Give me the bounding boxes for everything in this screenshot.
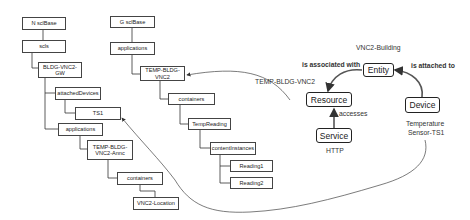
device-caption-line2: Sensor-TS1 (408, 129, 444, 137)
g-sclbase-node: G sclBase (110, 16, 155, 28)
attached-devices-node: attachedDevices (55, 87, 101, 100)
n-scls-node: scls (22, 40, 66, 53)
entity-node: Entity (363, 63, 394, 77)
relation-associated-label: is associated with (302, 61, 360, 69)
entity-caption: VNC2-Building (356, 44, 401, 52)
n-containers-node: containers (117, 172, 163, 185)
gateway-node: BLDG-VNC2-GW (38, 62, 82, 78)
n-applications-node: applications (58, 123, 103, 136)
temp-reading-node: TempReading (188, 118, 231, 130)
annc-node: TEMP-BLDG-VNC2-Annc (87, 140, 133, 160)
service-caption: HTTP (326, 147, 344, 155)
temp-bldg-vnc2-node: TEMP-BLDG-VNC2 (140, 66, 185, 81)
reading1-node: Reading1 (230, 160, 273, 172)
n-sclbase-node: N sclBase (22, 17, 66, 30)
ts1-node: TS1 (75, 107, 121, 120)
g-containers-node: containers (168, 93, 215, 105)
location-node: VNC2-Location (133, 197, 179, 210)
resource-caption: TEMP-BLDG-VNC2 (255, 78, 315, 86)
device-caption-line1: Temperature (406, 120, 444, 128)
device-node: Device (405, 97, 440, 113)
g-applications-node: applications (110, 42, 155, 55)
relation-attached-label: is attached to (411, 62, 455, 70)
relation-accesses-label: accesses (339, 110, 367, 118)
service-node: Service (316, 128, 352, 143)
resource-node: Resource (306, 92, 352, 107)
reading2-node: Reading2 (230, 177, 273, 189)
content-instances-node: contentInstances (210, 142, 256, 155)
